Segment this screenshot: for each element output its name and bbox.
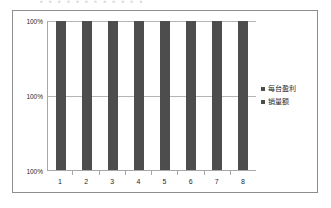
x-axis-tick xyxy=(100,171,126,175)
y-axis-label-top: 100% xyxy=(26,18,43,25)
bar[interactable] xyxy=(82,21,92,170)
bar[interactable] xyxy=(160,21,170,170)
bar-slot xyxy=(152,21,178,170)
bar[interactable] xyxy=(134,21,144,170)
x-axis-tick xyxy=(205,171,231,175)
x-axis-tick xyxy=(152,171,178,175)
x-axis-label: 7 xyxy=(204,176,230,188)
bar-series-group xyxy=(48,21,256,170)
x-axis-label: 8 xyxy=(230,176,256,188)
bar-slot xyxy=(100,21,126,170)
bar[interactable] xyxy=(212,21,222,170)
bar-slot xyxy=(126,21,152,170)
legend-swatch-icon xyxy=(261,100,265,104)
legend-item-sales-amount[interactable]: 销量额 xyxy=(261,98,317,106)
x-axis-label: 3 xyxy=(99,176,125,188)
x-axis-label: 2 xyxy=(73,176,99,188)
x-axis-ticks xyxy=(47,171,256,175)
x-axis-tick xyxy=(178,171,204,175)
bar-slot xyxy=(48,21,74,170)
cropped-header-artifact: ▪ ▪ ▪ ▪ ▪ ▪ ▪ ▪ ▪ ▪ ▪ ▪ xyxy=(40,0,290,6)
x-axis-tick xyxy=(73,171,99,175)
x-axis-tick xyxy=(47,171,73,175)
legend-label: 每台盈利 xyxy=(268,85,296,93)
legend-item-profit-per-unit[interactable]: 每台盈利 xyxy=(261,85,317,93)
plot-area xyxy=(47,21,256,171)
bar[interactable] xyxy=(186,21,196,170)
chart-page: ▪ ▪ ▪ ▪ ▪ ▪ ▪ ▪ ▪ ▪ ▪ ▪ 100% 100% 100% xyxy=(0,0,331,208)
bar[interactable] xyxy=(108,21,118,170)
legend-label: 销量额 xyxy=(268,98,289,106)
legend-swatch-icon xyxy=(261,87,265,91)
bar-slot xyxy=(204,21,230,170)
x-axis-tick xyxy=(231,171,256,175)
x-axis-label: 5 xyxy=(152,176,178,188)
bar[interactable] xyxy=(238,21,248,170)
x-axis-labels: 1 2 3 4 5 6 7 8 xyxy=(47,176,256,188)
chart-legend: 每台盈利 销量额 xyxy=(261,85,317,111)
x-axis-label: 4 xyxy=(125,176,151,188)
bar-slot xyxy=(74,21,100,170)
bar[interactable] xyxy=(56,21,66,170)
x-axis-label: 6 xyxy=(178,176,204,188)
y-axis-label-bottom: 100% xyxy=(26,168,43,175)
chart-frame: 100% 100% 100% xyxy=(12,10,318,193)
x-axis-label: 1 xyxy=(47,176,73,188)
bar-slot xyxy=(230,21,256,170)
bar-slot xyxy=(178,21,204,170)
y-axis-label-middle: 100% xyxy=(26,93,43,100)
x-axis-tick xyxy=(126,171,152,175)
y-axis-labels: 100% 100% 100% xyxy=(13,21,45,171)
